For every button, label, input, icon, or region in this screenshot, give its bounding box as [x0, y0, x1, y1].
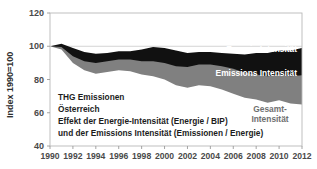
caption-line-1: THG Emissionen [58, 92, 124, 102]
series-label-gesamt-intensitaet-line1: Gesamt- [253, 104, 287, 114]
x-tick-label: 2004 [201, 151, 220, 161]
series-label-energie-intensitaet: Energie-Intensität [226, 44, 297, 54]
x-tick-label: 1990 [40, 151, 59, 161]
caption-line-4: und der Emissions Intensität (Emissionen… [58, 128, 263, 138]
series-label-gesamt-intensitaet-line2: Intensität [251, 114, 288, 124]
y-tick-label: 100 [29, 41, 44, 51]
x-tick-label: 1994 [86, 151, 105, 161]
x-tick-label: 2006 [224, 151, 243, 161]
y-tick-label: 80 [34, 75, 44, 85]
x-tick-label: 2012 [292, 151, 311, 161]
area-chart: 406080100120 199019921994199619982000200… [0, 0, 317, 169]
series-label-emissions-intensitaet: Emissions Intensität [216, 68, 298, 78]
chart-figure: 406080100120 199019921994199619982000200… [0, 0, 317, 169]
x-axis-ticks: 1990199219941996199820002002200420062008… [40, 146, 311, 161]
x-tick-label: 1996 [109, 151, 128, 161]
y-tick-label: 60 [34, 108, 44, 118]
caption-line-3: Effekt der Energie-Intensität (Energie /… [58, 116, 228, 126]
y-axis-ticks: 406080100120 [29, 8, 50, 151]
x-tick-label: 2010 [270, 151, 289, 161]
caption-line-2: Österreich [58, 104, 100, 114]
x-tick-label: 2000 [155, 151, 174, 161]
x-tick-label: 2008 [247, 151, 266, 161]
x-tick-label: 1998 [132, 151, 151, 161]
y-tick-label: 120 [29, 8, 44, 18]
x-tick-label: 2002 [178, 151, 197, 161]
y-axis-title: Index 1990=100 [5, 52, 15, 118]
x-tick-label: 1992 [63, 151, 82, 161]
y-tick-label: 40 [34, 141, 44, 151]
